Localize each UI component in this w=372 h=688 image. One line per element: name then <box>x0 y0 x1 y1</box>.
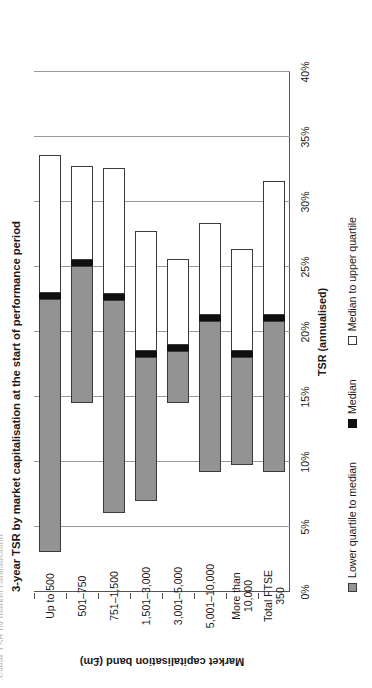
bar-segment-lower-to-median <box>199 321 221 473</box>
category-tick <box>194 593 195 599</box>
bar-group <box>103 72 125 592</box>
cropped-header-text: 3-year TSR by market capitalisation <box>0 534 3 680</box>
category-label: 1,501–3,000 <box>140 558 152 634</box>
category-tick <box>98 593 99 599</box>
bar-group <box>71 72 93 592</box>
value-axis-tick-label: 30% <box>299 191 311 212</box>
bar-segment-median-to-upper <box>103 168 125 294</box>
bar-segment-median-to-upper <box>231 249 253 351</box>
bar-segment-median-to-upper <box>39 155 61 292</box>
chart-figure: 3-year TSR by market capitalisation 3-ye… <box>0 0 372 688</box>
value-axis-tick-label: 20% <box>299 321 311 342</box>
category-label: Total FTSE 350 <box>262 558 286 634</box>
category-tick <box>130 593 131 599</box>
bar-segment-median-to-upper <box>71 166 93 261</box>
category-tick <box>34 593 35 599</box>
legend-swatch-upper-icon <box>348 336 357 345</box>
bar-segment-lower-to-median <box>263 321 285 473</box>
category-tick <box>162 593 163 599</box>
category-label: More than 10,000 <box>230 558 254 634</box>
category-axis-title-text: Market capitalisation band (£m) <box>80 656 244 668</box>
legend-swatch-lower-icon <box>348 583 357 592</box>
category-label: 751–1,500 <box>108 558 120 634</box>
bar-group <box>231 72 253 592</box>
bar-segment-median-to-upper <box>263 181 285 315</box>
value-axis-tick-label: 35% <box>299 126 311 147</box>
bar-segment-median <box>103 294 125 300</box>
value-axis-tick-label: 0% <box>299 584 311 599</box>
category-tick <box>258 593 259 599</box>
bar-segment-median <box>71 260 93 266</box>
bar-segment-median <box>39 293 61 299</box>
category-tick <box>66 593 67 599</box>
bar-group <box>263 72 285 592</box>
bar-segment-median <box>263 315 285 321</box>
bar-segment-lower-to-median <box>103 300 125 513</box>
bar-segment-lower-to-median <box>39 299 61 552</box>
bar-group <box>167 72 189 592</box>
legend-swatch-median-icon <box>348 419 357 428</box>
value-axis-tick-label: 40% <box>299 61 311 82</box>
bar-segment-lower-to-median <box>167 351 189 404</box>
bar-segment-lower-to-median <box>231 357 253 465</box>
bar-segment-median-to-upper <box>167 259 189 344</box>
category-label: 501–750 <box>76 558 88 634</box>
chart-title: 3-year TSR by market capitalisation at t… <box>10 221 22 592</box>
rotated-figure-wrapper: 3-year TSR by market capitalisation 3-ye… <box>0 0 372 688</box>
category-label: 3,001–5,000 <box>172 558 184 634</box>
value-axis-tick-label: 25% <box>299 256 311 277</box>
legend-item-median: Median <box>346 379 358 428</box>
bar-segment-median <box>231 351 253 357</box>
bar-segment-lower-to-median <box>71 266 93 403</box>
bar-segment-median <box>199 315 221 321</box>
value-axis-tick-label: 15% <box>299 386 311 407</box>
legend-label-median: Median <box>346 379 358 414</box>
bar-group <box>39 72 61 592</box>
bar-segment-median <box>167 345 189 351</box>
bar-group <box>199 72 221 592</box>
bar-segment-median <box>135 351 157 357</box>
chart-legend: Lower quartile to median Median Median t… <box>346 217 358 592</box>
bar-segment-median-to-upper <box>135 231 157 352</box>
bar-segment-lower-to-median <box>135 357 157 501</box>
value-axis-tick-label: 5% <box>299 519 311 534</box>
category-label: 5,001–10,000 <box>204 558 216 634</box>
legend-item-lower: Lower quartile to median <box>346 462 358 592</box>
bar-segment-median-to-upper <box>199 223 221 315</box>
value-axis-title-text: TSR (annualised) <box>316 288 328 376</box>
plot-area <box>34 72 290 592</box>
category-label: Up to 500 <box>44 558 56 634</box>
legend-label-upper: Median to upper quartile <box>346 217 358 331</box>
value-axis-tick-label: 10% <box>299 451 311 472</box>
bar-group <box>135 72 157 592</box>
legend-item-upper: Median to upper quartile <box>346 217 358 345</box>
legend-label-lower: Lower quartile to median <box>346 462 358 578</box>
category-tick <box>226 593 227 599</box>
